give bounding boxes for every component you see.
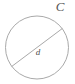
circumference-label: C [56,0,65,14]
circle-diagram-canvas: C d [0,0,75,84]
diameter-label: d [36,47,41,57]
circle-diagram-figure: C d [0,0,75,84]
